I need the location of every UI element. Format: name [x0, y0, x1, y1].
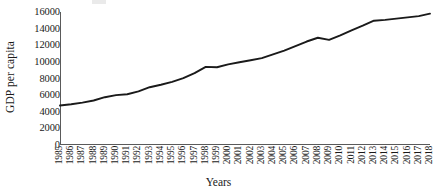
x-tick-label: 2014	[380, 146, 391, 176]
x-tick-label-text: 1986	[66, 146, 76, 164]
x-tick-label: 2002	[245, 146, 256, 176]
scan-artifact	[92, 0, 106, 4]
x-tick-label: 1992	[133, 146, 144, 176]
x-tick-label: 2017	[413, 146, 424, 176]
x-tick-label-text: 2017	[414, 146, 424, 164]
x-tick-label: 1991	[122, 146, 133, 176]
x-tick-label: 2004	[268, 146, 279, 176]
x-tick-label-text: 1990	[111, 146, 121, 164]
x-tick-label-text: 2000	[223, 146, 233, 164]
data-series-gdp-per-capita	[60, 12, 430, 145]
x-axis-title-text: Years	[206, 176, 232, 188]
x-tick-label: 1986	[66, 146, 77, 176]
x-tick-label-text: 1995	[167, 146, 177, 164]
x-tick-label: 2006	[290, 146, 301, 176]
x-tick-label: 2000	[223, 146, 234, 176]
x-tick-label-text: 2002	[246, 146, 256, 164]
x-tick-label: 2011	[346, 146, 357, 176]
x-tick-label-text: 2005	[279, 146, 289, 164]
x-tick-label-text: 2016	[403, 146, 413, 164]
x-tick-label: 1990	[111, 146, 122, 176]
x-tick-label: 2009	[324, 146, 335, 176]
x-tick-label: 1989	[99, 146, 110, 176]
x-tick-label: 2007	[301, 146, 312, 176]
x-axis-tick-labels: 1985198619871988198919901991199219931994…	[60, 146, 430, 176]
y-tick-label: 12000	[34, 40, 60, 50]
x-tick-label: 2008	[312, 146, 323, 176]
x-tick-label-text: 1997	[190, 146, 200, 164]
x-tick-label: 1988	[88, 146, 99, 176]
x-tick-label-text: 2007	[302, 146, 312, 164]
x-tick-label-text: 2014	[380, 146, 390, 164]
x-tick-label-text: 2001	[235, 146, 245, 164]
x-tick-label-text: 1989	[100, 146, 110, 164]
y-tick-label: 14000	[34, 24, 60, 34]
x-tick-label-text: 1987	[78, 146, 88, 164]
x-tick-label: 2013	[368, 146, 379, 176]
x-tick-label-text: 2009	[324, 146, 334, 164]
y-tick-label: 6000	[39, 90, 60, 100]
x-tick-label: 1999	[211, 146, 222, 176]
x-tick-label: 1995	[167, 146, 178, 176]
x-tick-label-text: 2013	[369, 146, 379, 164]
x-tick-label: 1998	[200, 146, 211, 176]
x-tick-label: 1996	[178, 146, 189, 176]
x-tick-label-text: 2004	[268, 146, 278, 164]
y-axis-tick-labels: 0200040006000800010000120001400016000	[18, 0, 60, 160]
x-tick-label: 2005	[279, 146, 290, 176]
plot-area	[60, 12, 430, 145]
x-tick-label-text: 2012	[358, 146, 368, 164]
y-tick-label: 16000	[34, 7, 60, 17]
x-tick-label-text: 1996	[179, 146, 189, 164]
x-axis-title: Years	[0, 176, 437, 188]
x-tick-label-text: 1998	[201, 146, 211, 164]
x-tick-label-text: 1992	[134, 146, 144, 164]
x-tick-label-text: 1991	[123, 146, 133, 164]
y-axis-title-text: GDP per capita	[4, 41, 16, 113]
x-tick-label: 1997	[189, 146, 200, 176]
x-tick-label: 1993	[144, 146, 155, 176]
series-line	[60, 14, 430, 106]
y-tick-label: 8000	[39, 74, 60, 84]
x-tick-label-text: 2010	[336, 146, 346, 164]
x-tick-label-text: 1988	[89, 146, 99, 164]
y-axis-title: GDP per capita	[2, 18, 18, 136]
x-tick-label-text: 1993	[145, 146, 155, 164]
x-tick-label: 1987	[77, 146, 88, 176]
x-tick-label-text: 1985	[55, 146, 65, 164]
x-tick-label-text: 2008	[313, 146, 323, 164]
x-tick-label: 2010	[335, 146, 346, 176]
x-tick-label: 1994	[155, 146, 166, 176]
x-tick-label: 2015	[391, 146, 402, 176]
x-tick-label: 2012	[357, 146, 368, 176]
x-tick-label-text: 2006	[291, 146, 301, 164]
y-tick-label: 2000	[39, 123, 60, 133]
x-tick-label-text: 2011	[347, 146, 357, 164]
y-tick-label: 4000	[39, 107, 60, 117]
x-tick-label: 1985	[55, 146, 66, 176]
x-tick-label-text: 1994	[156, 146, 166, 164]
x-tick-label: 2001	[234, 146, 245, 176]
x-tick-label-text: 2003	[257, 146, 267, 164]
x-tick-label: 2016	[402, 146, 413, 176]
x-tick-label-text: 1999	[212, 146, 222, 164]
x-tick-label: 2018	[425, 146, 436, 176]
y-tick-label: 10000	[34, 57, 60, 67]
x-tick-label-text: 2018	[425, 146, 435, 164]
x-tick-label-text: 2015	[392, 146, 402, 164]
line-chart: GDP per capita 0200040006000800010000120…	[0, 0, 437, 192]
x-tick-label: 2003	[256, 146, 267, 176]
